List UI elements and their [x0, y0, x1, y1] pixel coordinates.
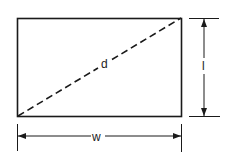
diagonal-line: [18, 68, 98, 116]
width-label: w: [91, 130, 101, 144]
rectangle-diagram: d l w: [0, 0, 229, 163]
diagonal-line-upper: [112, 18, 181, 60]
length-label: l: [202, 59, 205, 73]
diagonal-label: d: [101, 57, 108, 71]
